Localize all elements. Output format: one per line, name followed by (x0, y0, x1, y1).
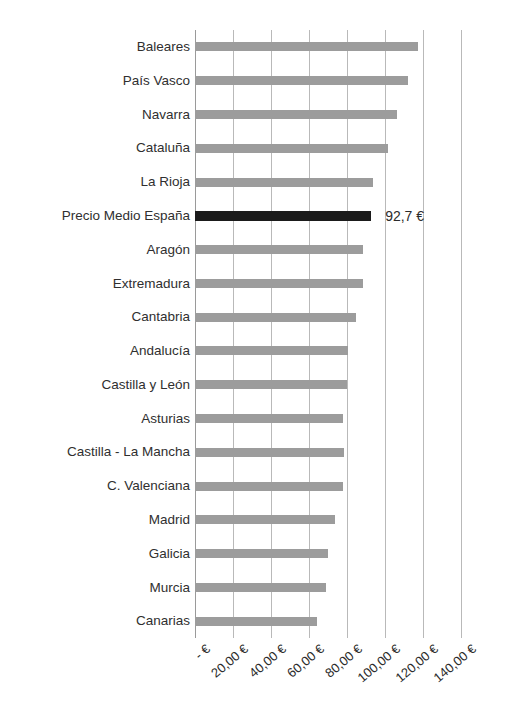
category-label: Castilla - La Mancha (0, 445, 190, 459)
bar (195, 76, 408, 85)
category-label: Baleares (0, 40, 190, 54)
bar (195, 178, 373, 187)
bar-chart: BalearesPaís VascoNavarraCataluñaLa Rioj… (0, 0, 505, 720)
bar (195, 313, 356, 322)
bar-row: Madrid (0, 503, 505, 537)
bar (195, 515, 335, 524)
bar-row: Cataluña (0, 131, 505, 165)
bar (195, 380, 347, 389)
bar-row: C. Valenciana (0, 469, 505, 503)
bar-row: Andalucía (0, 334, 505, 368)
bar (195, 346, 348, 355)
bar-row: Precio Medio España92,7 € (0, 199, 505, 233)
bar (195, 617, 317, 626)
category-label: Madrid (0, 513, 190, 527)
bar-row: País Vasco (0, 64, 505, 98)
x-tick-label: 60,00 € (285, 642, 327, 680)
bar-row: Extremadura (0, 266, 505, 300)
bar (195, 144, 388, 153)
bar-row: Navarra (0, 98, 505, 132)
bar (195, 279, 363, 288)
bar (195, 414, 343, 423)
category-label: País Vasco (0, 74, 190, 88)
category-label: La Rioja (0, 175, 190, 189)
bar-row: Canarias (0, 604, 505, 638)
bar-rows: BalearesPaís VascoNavarraCataluñaLa Rioj… (0, 30, 505, 638)
bar-row: Castilla y León (0, 368, 505, 402)
category-label: Cataluña (0, 141, 190, 155)
category-label: Galicia (0, 547, 190, 561)
bar-row: Murcia (0, 570, 505, 604)
category-label: Murcia (0, 581, 190, 595)
bar-row: Galicia (0, 537, 505, 571)
bar-row: Castilla - La Mancha (0, 435, 505, 469)
bar (195, 583, 326, 592)
category-label: Extremadura (0, 277, 190, 291)
bar (195, 110, 397, 119)
bar-row: Asturias (0, 402, 505, 436)
bar (195, 549, 328, 558)
bar (195, 448, 344, 457)
bar (195, 482, 343, 491)
category-label: Precio Medio España (0, 209, 190, 223)
x-tick-label: 40,00 € (247, 642, 289, 680)
category-label: Andalucía (0, 344, 190, 358)
bar-highlight (195, 211, 371, 221)
x-tick-label: - € (192, 642, 212, 662)
bar-row: La Rioja (0, 165, 505, 199)
bar (195, 245, 363, 254)
bar-row: Aragón (0, 233, 505, 267)
category-label: Navarra (0, 108, 190, 122)
x-axis-tick-labels: - €20,00 €40,00 €60,00 €80,00 €100,00 €1… (0, 638, 505, 708)
bar-row: Baleares (0, 30, 505, 64)
bar (195, 42, 418, 51)
x-tick-label: 20,00 € (209, 642, 251, 680)
category-label: C. Valenciana (0, 479, 190, 493)
bar-value-label: 92,7 € (385, 209, 424, 223)
bar-row: Cantabria (0, 300, 505, 334)
category-label: Canarias (0, 614, 190, 628)
category-label: Aragón (0, 243, 190, 257)
category-label: Asturias (0, 412, 190, 426)
category-label: Cantabria (0, 310, 190, 324)
category-label: Castilla y León (0, 378, 190, 392)
